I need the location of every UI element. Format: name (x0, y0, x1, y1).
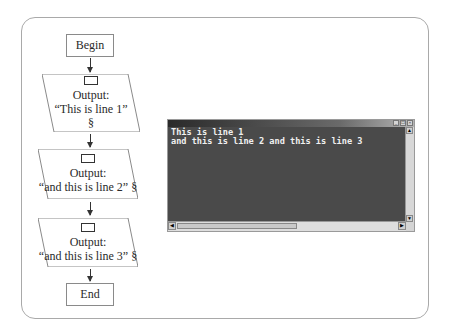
scroll-left-arrow[interactable]: ◀ (168, 222, 176, 230)
console-window: _ □ × This is line 1and this is line 2 a… (167, 119, 415, 232)
output-step-2: Output: “and this is line 2” § (38, 149, 138, 199)
output-text: “This is line 1” (55, 102, 128, 116)
flow-arrow (90, 269, 91, 281)
maximize-button[interactable]: □ (400, 120, 406, 126)
console-title-bar[interactable]: _ □ × (168, 120, 414, 127)
output-step-1: Output: “This is line 1” § (42, 74, 140, 132)
close-button[interactable]: × (407, 120, 413, 126)
minimize-button[interactable]: _ (393, 120, 399, 126)
scroll-down-arrow[interactable]: ▼ (406, 215, 413, 222)
output-icon (84, 76, 98, 85)
output-label: Output: (73, 88, 110, 102)
output-icon (81, 154, 95, 163)
output-text: “and this is line 3” § (39, 249, 137, 263)
horizontal-scrollbar[interactable]: ◀ ▶ (168, 221, 406, 231)
end-terminal: End (66, 283, 114, 306)
resize-grip[interactable] (406, 222, 414, 231)
vertical-scrollbar[interactable]: ▲ ▼ (405, 127, 414, 222)
output-icon (81, 223, 95, 232)
scroll-right-arrow[interactable]: ▶ (398, 222, 406, 230)
output-text: “and this is line 2” § (39, 180, 137, 194)
output-label: Output: (70, 166, 107, 180)
horizontal-scroll-thumb[interactable] (177, 223, 297, 229)
flow-arrow (90, 202, 91, 215)
scroll-up-arrow[interactable]: ▲ (406, 127, 413, 134)
console-line: and this is line 2 and this is line 3 (171, 137, 362, 146)
begin-label: Begin (76, 38, 105, 53)
begin-terminal: Begin (66, 34, 114, 57)
output-step-3: Output: “and this is line 3” § (38, 218, 138, 267)
flow-arrow (90, 58, 91, 72)
end-label: End (80, 287, 99, 302)
output-label: Output: (70, 235, 107, 249)
newline-marker: § (88, 116, 94, 130)
console-output: This is line 1and this is line 2 and thi… (171, 128, 362, 146)
flow-arrow (90, 134, 91, 147)
